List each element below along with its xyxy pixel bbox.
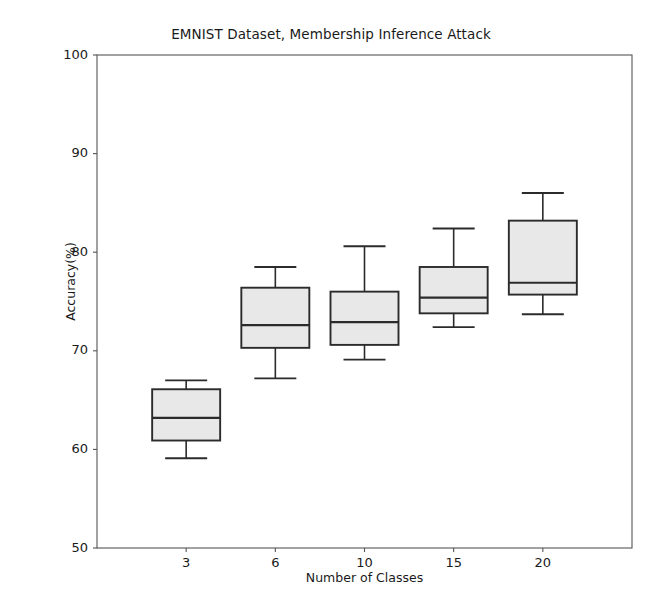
box-plot-item — [331, 246, 399, 359]
y-tick-label: 50 — [71, 540, 88, 555]
y-axis-label: Accuracy(%) — [63, 202, 78, 362]
x-axis-label: Number of Classes — [97, 570, 632, 585]
y-tick-label: 60 — [71, 441, 88, 456]
box-series — [152, 193, 577, 458]
y-tick-label: 90 — [71, 145, 88, 160]
x-tick-label: 10 — [356, 555, 373, 570]
y-tick-label: 100 — [63, 47, 88, 62]
box-iqr — [331, 292, 399, 345]
box-plot-item — [509, 193, 577, 314]
x-tick-label: 3 — [182, 555, 190, 570]
box-plot-area: 5060708090100 36101520 — [0, 0, 662, 610]
box-iqr — [241, 288, 309, 348]
box-plot-item — [241, 267, 309, 378]
x-tick-label: 20 — [535, 555, 552, 570]
x-tick-label: 6 — [271, 555, 279, 570]
box-iqr — [152, 389, 220, 440]
box-plot-item — [152, 380, 220, 458]
box-iqr — [420, 267, 488, 313]
x-axis-ticks: 36101520 — [182, 548, 551, 570]
figure-canvas: EMNIST Dataset, Membership Inference Att… — [0, 0, 662, 610]
box-plot-item — [420, 229, 488, 328]
x-tick-label: 15 — [445, 555, 462, 570]
